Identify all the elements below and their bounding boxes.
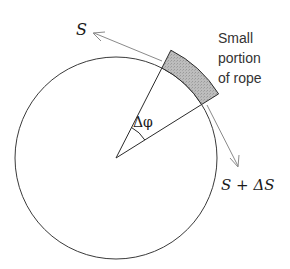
tension-arrow-s-plus-delta-s [207, 105, 239, 167]
capstan-rope-diagram: S S + ΔS Δφ Small portion of rope [0, 0, 290, 269]
label-s-plus-delta-s: S + ΔS [221, 176, 275, 194]
radius-line-lower [116, 105, 202, 159]
radius-line-upper [116, 68, 162, 158]
rope-segment [162, 50, 219, 104]
label-s: S [76, 20, 87, 39]
caption-line-2: portion [218, 50, 261, 66]
caption-line-1: Small [218, 30, 253, 46]
caption-line-3: of rope [218, 70, 262, 86]
tension-arrow-s [93, 32, 162, 61]
label-delta-phi: Δφ [133, 114, 153, 130]
